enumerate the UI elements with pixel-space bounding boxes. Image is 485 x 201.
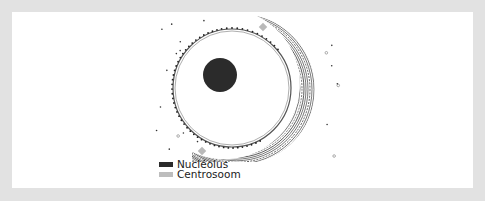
legend: Nucleolus Centrosoom <box>159 159 241 179</box>
figure-panel: Nucleolus Centrosoom <box>12 12 473 188</box>
legend-item-centrosome: Centrosoom <box>159 169 241 179</box>
nucleus-membrane <box>173 29 291 147</box>
nucleolus-swatch <box>159 162 173 167</box>
legend-label: Centrosoom <box>177 169 241 179</box>
cell-diagram <box>12 12 473 188</box>
nucleolus <box>203 58 237 92</box>
centrosome-swatch <box>159 172 173 177</box>
